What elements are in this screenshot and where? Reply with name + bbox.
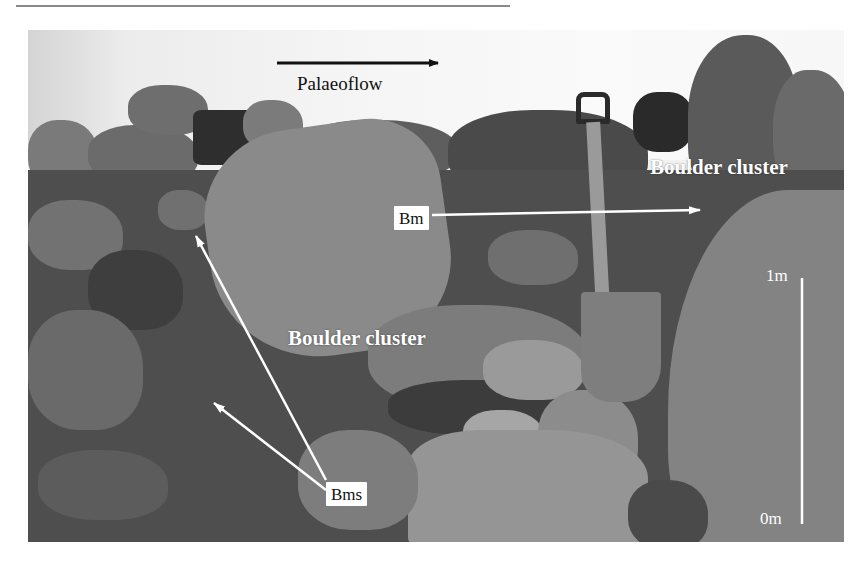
scale-bar-bottom-label: 0m	[760, 510, 782, 527]
scale-bar-top-label: 1m	[766, 267, 788, 284]
boulder-cluster-label-upper: Boulder cluster	[650, 155, 788, 180]
bm-arrow	[432, 210, 700, 215]
annotation-arrows	[0, 0, 868, 562]
boulder-cluster-label-center: Boulder cluster	[288, 326, 426, 351]
palaeoflow-label: Palaeoflow	[297, 74, 382, 93]
bms-label: Bms	[326, 482, 367, 506]
bms-arrow-upper	[196, 236, 326, 480]
bm-label: Bm	[394, 206, 429, 230]
